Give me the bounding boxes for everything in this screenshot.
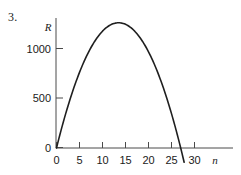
problem-number-label: 3. bbox=[8, 10, 17, 25]
y-ticklabel-1000: 1000 bbox=[27, 43, 51, 55]
figure-container: 3. 0 500 1000 0 5 10 15 20 25 30 R n bbox=[0, 0, 241, 175]
x-ticklabel-10: 10 bbox=[96, 154, 108, 166]
x-ticklabel-25: 25 bbox=[165, 154, 177, 166]
chart-svg: 0 500 1000 0 5 10 15 20 25 30 R n bbox=[0, 0, 241, 175]
x-ticklabel-5: 5 bbox=[76, 154, 82, 166]
x-axis-label: n bbox=[212, 154, 218, 166]
y-ticklabel-0: 0 bbox=[45, 142, 51, 154]
x-ticklabel-30: 30 bbox=[188, 154, 200, 166]
y-axis-label: R bbox=[44, 21, 52, 33]
x-ticklabel-15: 15 bbox=[119, 154, 131, 166]
y-ticklabel-500: 500 bbox=[33, 92, 51, 104]
x-ticklabel-20: 20 bbox=[142, 154, 154, 166]
x-ticklabel-0: 0 bbox=[53, 154, 59, 166]
revenue-curve bbox=[57, 23, 185, 163]
